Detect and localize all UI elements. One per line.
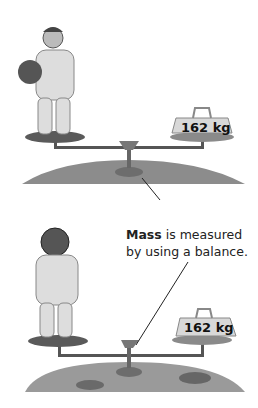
- earth-weight-label: 162 kg: [181, 120, 231, 135]
- caption-line1: is measured: [162, 227, 242, 242]
- moon-weight-label: 162 kg: [184, 320, 234, 335]
- caption: Mass is measured by using a balance.: [126, 226, 258, 260]
- caption-line2: by using a balance.: [126, 244, 248, 259]
- caption-bold: Mass: [126, 227, 162, 242]
- earth-scene: [18, 27, 245, 200]
- balance-illustration: [0, 0, 258, 408]
